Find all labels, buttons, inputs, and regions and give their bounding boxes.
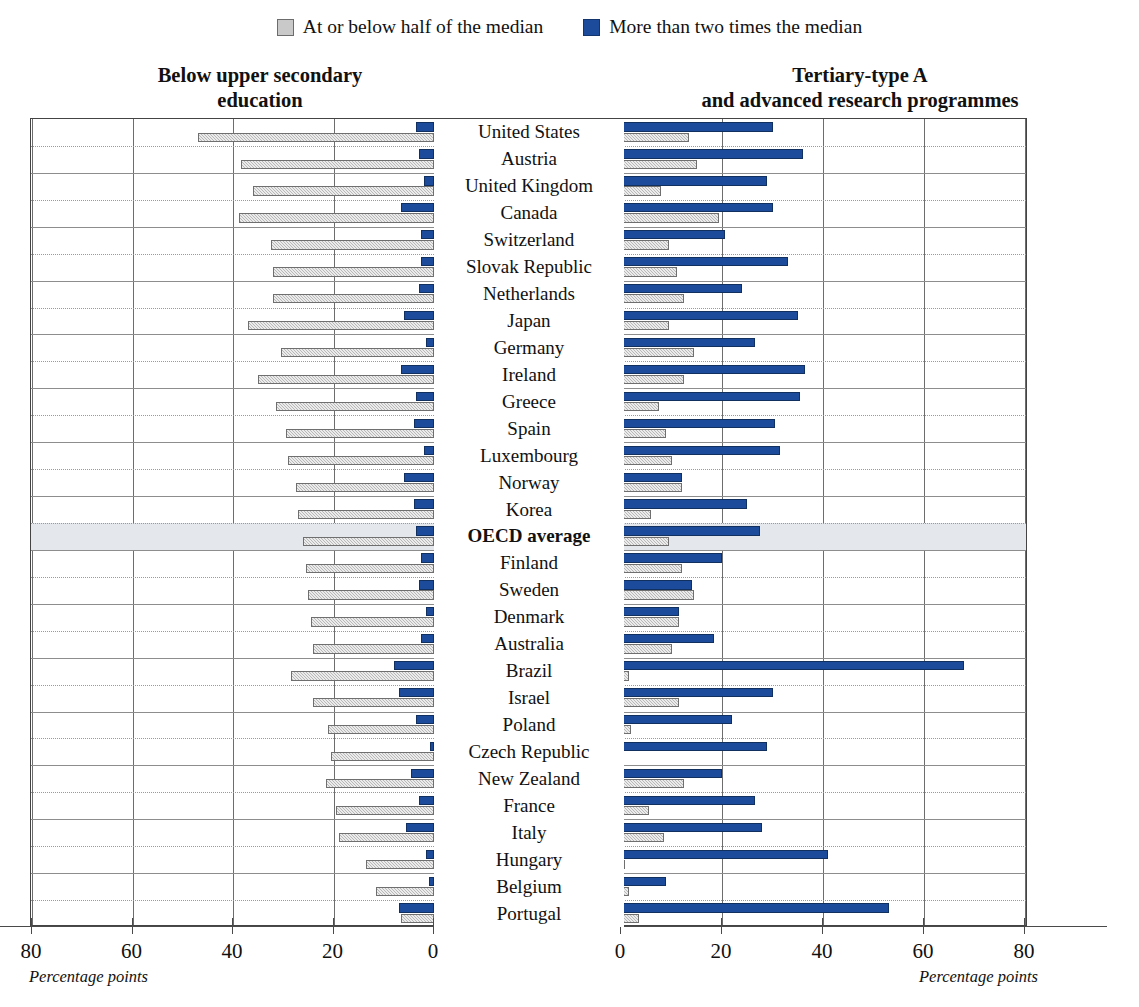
bar-left-gray — [313, 698, 434, 707]
category-label: Canada — [501, 202, 558, 224]
bar-left-gray — [253, 186, 434, 195]
bar-left-gray — [313, 644, 434, 653]
chart-row: Norway — [31, 469, 1026, 496]
bar-left-gray — [366, 860, 434, 869]
category-label-cell: Denmark — [434, 604, 624, 631]
axis-tick — [721, 918, 722, 934]
category-label-cell: Brazil — [434, 658, 624, 685]
bar-left-blue — [401, 203, 434, 212]
bar-left-blue — [419, 149, 434, 158]
bar-right-blue — [621, 446, 780, 455]
axis-tick-label: 0 — [615, 939, 626, 964]
category-label-cell: Japan — [434, 308, 624, 335]
bar-right-blue — [621, 311, 798, 320]
bar-right-blue — [621, 877, 666, 886]
bar-right-gray — [621, 133, 689, 142]
bar-right-blue — [621, 499, 747, 508]
bar-left-gray — [276, 402, 434, 411]
category-label-cell: Ireland — [434, 361, 624, 388]
category-label-cell: Canada — [434, 200, 624, 227]
bar-right-blue — [621, 284, 742, 293]
category-label: Ireland — [502, 364, 556, 386]
chart-row: Canada — [31, 200, 1026, 227]
bar-left-gray — [376, 887, 434, 896]
axis-tick — [822, 918, 823, 934]
bar-right-gray — [621, 483, 682, 492]
chart-row: Hungary — [31, 846, 1026, 873]
axis-caption-left: Percentage points — [29, 967, 148, 987]
bar-right-gray — [621, 429, 666, 438]
category-label-cell: Finland — [434, 550, 624, 577]
category-label: Korea — [506, 499, 552, 521]
bar-right-blue — [621, 769, 722, 778]
chart-row: Korea — [31, 496, 1026, 523]
bar-left-blue — [426, 338, 434, 347]
axis-tick — [132, 918, 133, 934]
category-label: United Kingdom — [465, 175, 593, 197]
category-label: Austria — [501, 148, 557, 170]
category-label: Switzerland — [484, 229, 575, 251]
category-label: Hungary — [496, 849, 562, 871]
category-label-cell: Hungary — [434, 846, 624, 873]
bar-right-blue — [621, 903, 889, 912]
chart-row: United States — [31, 119, 1026, 146]
axis-tick-label: 0 — [428, 939, 439, 964]
category-label-cell: Germany — [434, 334, 624, 361]
bar-left-gray — [339, 833, 434, 842]
bar-left-blue — [416, 392, 434, 401]
bar-right-gray — [621, 833, 664, 842]
legend-item-at-or-below-half: At or below half of the median — [277, 16, 543, 38]
bar-left-gray — [401, 914, 434, 923]
blue-square-swatch-icon — [583, 19, 600, 36]
category-label: Belgium — [496, 876, 561, 898]
bar-left-gray — [258, 375, 434, 384]
category-label-cell: United Kingdom — [434, 173, 624, 200]
bar-right-gray — [621, 617, 679, 626]
category-label: Brazil — [506, 660, 552, 682]
legend-label-blue: More than two times the median — [609, 16, 862, 38]
category-label-cell: Slovak Republic — [434, 254, 624, 281]
panel-title-left: Below upper secondaryeducation — [60, 63, 460, 113]
chart-row: Germany — [31, 334, 1026, 361]
bar-left-gray — [273, 294, 434, 303]
bar-right-blue — [621, 553, 722, 562]
bar-right-blue — [621, 580, 692, 589]
bar-left-gray — [331, 752, 434, 761]
bar-left-blue — [421, 230, 434, 239]
bar-left-blue — [411, 769, 434, 778]
chart-row: Finland — [31, 550, 1026, 577]
bar-right-gray — [621, 294, 684, 303]
bar-left-gray — [286, 429, 434, 438]
bar-right-blue — [621, 365, 805, 374]
bar-right-blue — [621, 526, 760, 535]
chart-row: Netherlands — [31, 281, 1026, 308]
bar-right-blue — [621, 796, 755, 805]
category-label: Greece — [502, 391, 556, 413]
bar-left-gray — [239, 213, 434, 222]
category-label: Portugal — [497, 903, 561, 925]
axis-caption-right: Percentage points — [919, 967, 1038, 987]
bar-left-gray — [306, 564, 434, 573]
category-label-cell: New Zealand — [434, 765, 624, 792]
legend-item-more-than-two-times: More than two times the median — [583, 16, 862, 38]
category-label: Czech Republic — [469, 741, 590, 763]
category-label-cell: Austria — [434, 146, 624, 173]
chart-row: Brazil — [31, 658, 1026, 685]
category-label-cell: Luxembourg — [434, 442, 624, 469]
bar-left-blue — [404, 311, 434, 320]
chart-row: Poland — [31, 712, 1026, 739]
bar-right-gray — [621, 160, 697, 169]
bar-left-blue — [421, 634, 434, 643]
bar-left-blue — [401, 365, 434, 374]
bar-left-gray — [273, 267, 434, 276]
category-label-cell: France — [434, 792, 624, 819]
bar-right-blue — [621, 850, 828, 859]
bar-right-gray — [621, 456, 672, 465]
bar-right-blue — [621, 634, 714, 643]
bar-left-blue — [399, 903, 434, 912]
axis-tick — [333, 918, 334, 934]
bar-right-gray — [621, 806, 649, 815]
axis-tick-label: 60 — [121, 939, 142, 964]
category-label: Spain — [507, 418, 550, 440]
chart-row: United Kingdom — [31, 173, 1026, 200]
